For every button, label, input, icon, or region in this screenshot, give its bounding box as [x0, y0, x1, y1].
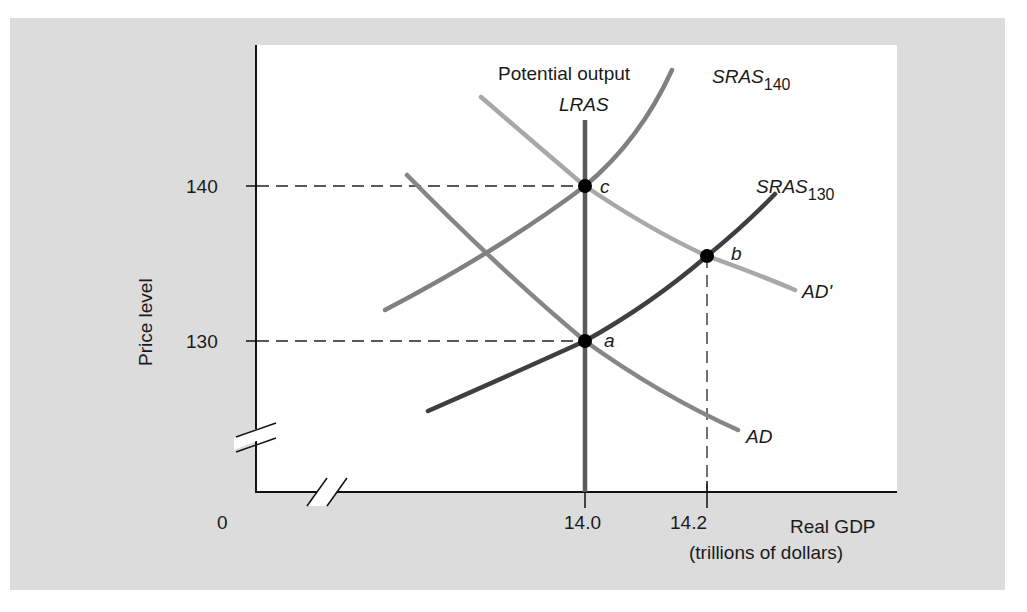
ad-prime-label: AD' [801, 281, 833, 302]
potential-output-label: Potential output [498, 63, 631, 84]
point-c-label: c [600, 176, 610, 197]
point-c-marker [578, 179, 592, 193]
point-b-marker [700, 249, 714, 263]
ad-label: AD [745, 426, 773, 447]
y-tick-label-130: 130 [186, 331, 218, 352]
y-tick-label-140: 140 [186, 176, 218, 197]
x-axis-subtitle: (trillions of dollars) [689, 542, 843, 563]
x-axis-title: Real GDP [790, 516, 876, 537]
y-axis-title: Price level [135, 278, 156, 366]
x-tick-label-14-2: 14.2 [670, 512, 707, 533]
point-a-marker [578, 334, 592, 348]
aggregate-supply-demand-chart: Potential output LRAS SRAS140 SRAS130 AD… [0, 0, 1027, 612]
point-b-label: b [731, 243, 742, 264]
lras-label: LRAS [559, 94, 609, 115]
point-a-label: a [604, 330, 615, 351]
origin-label: 0 [217, 512, 228, 533]
x-tick-label-14-0: 14.0 [564, 512, 601, 533]
